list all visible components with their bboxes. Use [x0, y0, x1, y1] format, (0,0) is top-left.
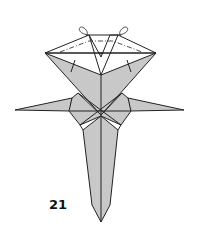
- origami-diagram: [0, 0, 199, 235]
- left-arm: [15, 98, 72, 111]
- fold-arrow-right: [118, 27, 128, 36]
- fold-arrow-left: [79, 27, 89, 36]
- step-number: 21: [49, 197, 67, 212]
- right-arm: [128, 98, 184, 111]
